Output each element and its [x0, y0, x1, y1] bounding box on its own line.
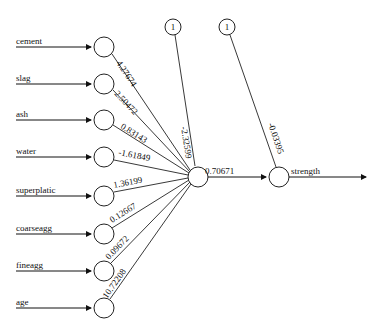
hidden-to-output: 0.70671 [205, 166, 266, 177]
input-water: water -1.61849 [16, 146, 188, 175]
input-superplatic: superplatic 1.36199 [16, 174, 188, 206]
input-node-ash [94, 110, 114, 130]
input-label-superplatic: superplatic [16, 185, 56, 195]
input-node-slag [94, 74, 114, 94]
weight-bias-output: -0.03395 [266, 121, 286, 155]
neural-network-diagram: cement 4.27674 slag 2.50472 ash 0.83143 … [0, 0, 380, 332]
input-label-age: age [16, 297, 29, 307]
weight-cement: 4.27674 [114, 59, 139, 89]
bias-output-label: 1 [225, 22, 230, 32]
weight-slag: 2.50472 [113, 89, 140, 117]
input-label-ash: ash [16, 109, 28, 119]
weight-water: -1.61849 [118, 147, 152, 163]
weight-ash: 0.83143 [119, 121, 150, 145]
input-label-coarseagg: coarseagg [16, 223, 52, 233]
input-label-fineagg: fineagg [16, 260, 43, 270]
input-node-coarseagg [94, 224, 114, 244]
input-node-cement [94, 37, 114, 57]
weight-bias-hidden: -2.32599 [179, 126, 194, 160]
input-label-water: water [16, 146, 36, 156]
input-label-slag: slag [16, 73, 31, 83]
input-node-water [94, 147, 114, 167]
weight-hidden-output: 0.70671 [205, 166, 234, 176]
bias-hidden-label: 1 [171, 22, 176, 32]
input-node-age [94, 298, 114, 318]
input-label-cement: cement [16, 36, 42, 46]
input-node-superplatic [94, 186, 114, 206]
output-node [269, 167, 289, 187]
output-label: strength [291, 166, 320, 176]
bias-output: 1 -0.03395 [219, 19, 286, 167]
bias-hidden: 1 -2.32599 [165, 19, 195, 166]
